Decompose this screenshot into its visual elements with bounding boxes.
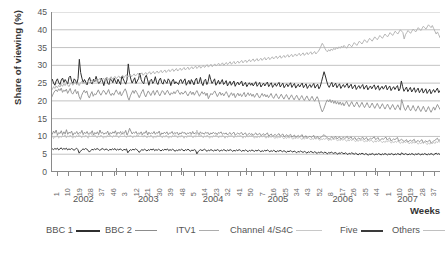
legend-label: Channel 4/S4C [230, 226, 293, 235]
x-tick-mark [205, 172, 206, 176]
x-tick-mark [308, 172, 309, 176]
x-tick-mark [389, 172, 390, 176]
y-tick-label: 30 [27, 61, 47, 70]
y-tick-label: 10 [27, 132, 47, 141]
legend-item-five[interactable]: Five [340, 226, 383, 235]
x-tick-mark [114, 172, 115, 176]
x-tick-mark [354, 172, 355, 176]
legend-swatch-line [296, 230, 322, 231]
y-tick-label: 15 [27, 114, 47, 123]
x-tick-mark [68, 172, 69, 176]
y-tick-label: 25 [27, 79, 47, 88]
x-tick-mark [343, 172, 344, 176]
legend-swatch-line [135, 230, 157, 231]
y-tick-label: 20 [27, 97, 47, 106]
year-label: 2006 [332, 194, 353, 204]
x-tick-mark [217, 172, 218, 176]
year-separator-tick [116, 168, 117, 175]
chart-figure: Share of viewing (%) 051015202530354045 … [0, 0, 446, 257]
x-axis-title: Weeks [410, 205, 440, 216]
x-tick-mark [377, 172, 378, 176]
x-tick-mark [400, 172, 401, 176]
legend-swatch-line [423, 230, 445, 231]
legend-label: Others [392, 226, 420, 235]
legend-item-bbc-1[interactable]: BBC 1 [46, 226, 100, 235]
legend-swatch-line [361, 230, 383, 232]
year-label: 2003 [138, 194, 159, 204]
y-tick-label: 40 [27, 25, 47, 34]
year-label: 2005 [268, 194, 289, 204]
year-separator-tick [375, 168, 376, 175]
series-line-channel-4-s4c [51, 130, 440, 145]
x-tick-mark [274, 172, 275, 176]
year-separator-tick [181, 168, 182, 175]
x-tick-mark [411, 172, 412, 176]
legend-label: Five [340, 226, 358, 235]
x-tick-mark [263, 172, 264, 176]
x-tick-mark [434, 172, 435, 176]
y-tick-label: 35 [27, 43, 47, 52]
y-tick-label: 5 [27, 150, 47, 159]
y-axis-tick-labels: 051015202530354045 [25, 0, 47, 257]
year-separator-tick [246, 168, 247, 175]
legend-swatch-line [199, 230, 219, 231]
legend-item-itv1[interactable]: ITV1 [176, 226, 219, 235]
plot-area [51, 12, 440, 172]
x-tick-mark [171, 172, 172, 176]
series-line-bbc-1 [51, 59, 440, 93]
y-tick-label: 0 [27, 168, 47, 177]
x-tick-mark [331, 172, 332, 176]
x-tick-mark [423, 172, 424, 176]
legend-label: ITV1 [176, 226, 196, 235]
x-tick-mark [160, 172, 161, 176]
legend-swatch-line [76, 230, 100, 232]
x-tick-mark [137, 172, 138, 176]
x-axis-year-labels: 200220032004200520062007 [51, 194, 440, 208]
x-tick-mark [286, 172, 287, 176]
legend-item-bbc-2[interactable]: BBC 2 [105, 226, 157, 235]
legend-label: BBC 2 [105, 226, 132, 235]
series-line-itv1 [51, 88, 440, 112]
x-tick-mark [240, 172, 241, 176]
y-axis-title: Share of viewing (%) [12, 0, 23, 133]
legend-item-channel-4-s4c[interactable]: Channel 4/S4C [230, 226, 322, 235]
x-tick-mark [148, 172, 149, 176]
x-tick-mark [228, 172, 229, 176]
year-separator-tick [310, 168, 311, 175]
x-tick-mark [251, 172, 252, 176]
x-tick-mark [320, 172, 321, 176]
year-label: 2004 [203, 194, 224, 204]
chart-legend: BBC 1BBC 2ITV1Channel 4/S4CFiveOthers [0, 226, 446, 242]
x-tick-mark [194, 172, 195, 176]
legend-item-others[interactable]: Others [392, 226, 445, 235]
x-tick-mark [366, 172, 367, 176]
x-tick-mark [102, 172, 103, 176]
year-label: 2007 [397, 194, 418, 204]
x-tick-mark [80, 172, 81, 176]
year-label: 2002 [73, 194, 94, 204]
x-tick-mark [91, 172, 92, 176]
x-tick-mark [125, 172, 126, 176]
series-line-others [51, 25, 440, 90]
x-axis-tick-labels: 1101928374631221303948514233241507162534… [51, 172, 440, 196]
legend-label: BBC 1 [46, 226, 73, 235]
x-tick-mark [183, 172, 184, 176]
x-tick-mark [297, 172, 298, 176]
series-canvas [51, 12, 440, 172]
y-tick-label: 45 [27, 8, 47, 17]
x-tick-mark [57, 172, 58, 176]
